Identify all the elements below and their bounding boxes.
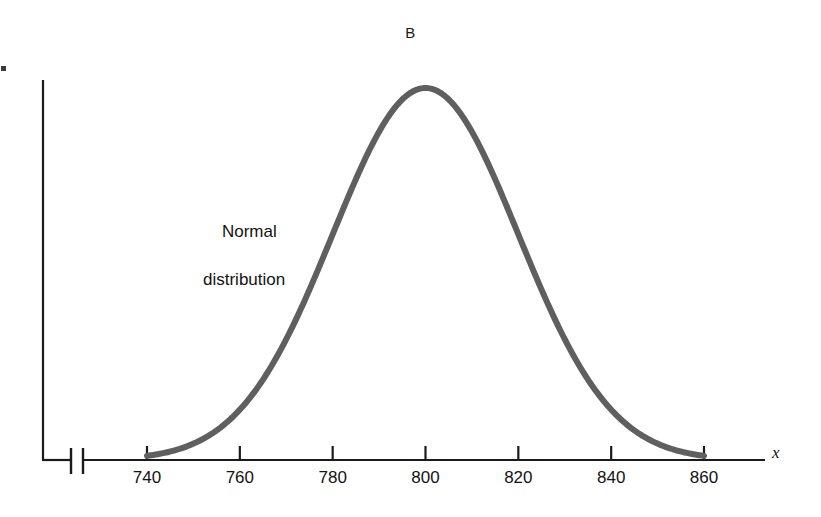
x-axis-tick-label: 840 [597, 468, 625, 488]
x-axis-tick-label: 740 [133, 468, 161, 488]
axis-break-icon [71, 448, 83, 474]
panel-letter: B [0, 24, 821, 41]
x-axis-tick-label: 760 [226, 468, 254, 488]
x-axis-tick-label: 780 [318, 468, 346, 488]
x-axis-ticks [147, 446, 704, 460]
x-axis-tick-label: 860 [690, 468, 718, 488]
x-axis-tick-label: 820 [504, 468, 532, 488]
x-axis-tick-label: 800 [411, 468, 439, 488]
curve-annotation: Normal distribution [203, 196, 285, 340]
curve-annotation-line2: distribution [203, 268, 285, 292]
figure-panel: B 740760780800820840860 x Normal distrib… [0, 0, 821, 517]
normal-distribution-plot [0, 0, 821, 517]
scan-edge-mark [1, 66, 6, 71]
curve-annotation-line1: Normal [222, 222, 277, 241]
x-axis-variable-label: x [772, 443, 780, 463]
